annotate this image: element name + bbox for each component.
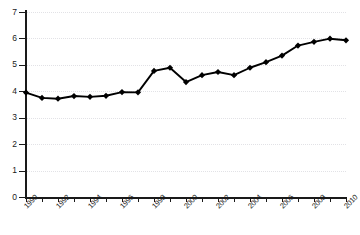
gridline-y-6: [26, 38, 346, 39]
x-tick-1995: [106, 197, 107, 202]
x-tick-2007: [298, 197, 299, 202]
x-tick-1991: [42, 197, 43, 202]
y-tick-0: [19, 197, 26, 198]
gridline-y-3: [26, 118, 346, 119]
gridline-y-5: [26, 65, 346, 66]
y-tick-label-7: 7: [3, 8, 17, 17]
y-tick-label-0: 0: [3, 193, 17, 202]
x-tick-2009: [330, 197, 331, 202]
y-tick-5: [19, 65, 26, 66]
gridline-y-4: [26, 91, 346, 92]
y-tick-4: [19, 91, 26, 92]
x-tick-1999: [170, 197, 171, 202]
y-tick-7: [19, 12, 26, 13]
y-tick-label-3: 3: [3, 113, 17, 122]
x-tick-2001: [202, 197, 203, 202]
x-tick-1993: [74, 197, 75, 202]
y-tick-label-5: 5: [3, 60, 17, 69]
gridline-y-2: [26, 144, 346, 145]
gridline-y-1: [26, 171, 346, 172]
x-tick-2005: [266, 197, 267, 202]
x-tick-2003: [234, 197, 235, 202]
y-tick-6: [19, 38, 26, 39]
y-tick-label-6: 6: [3, 34, 17, 43]
y-tick-3: [19, 118, 26, 119]
x-tick-1997: [138, 197, 139, 202]
plot-area: [26, 12, 346, 197]
gridline-y-7: [26, 12, 346, 13]
y-tick-1: [19, 171, 26, 172]
y-tick-2: [19, 144, 26, 145]
y-tick-label-2: 2: [3, 140, 17, 149]
y-tick-label-1: 1: [3, 166, 17, 175]
y-tick-label-4: 4: [3, 87, 17, 96]
